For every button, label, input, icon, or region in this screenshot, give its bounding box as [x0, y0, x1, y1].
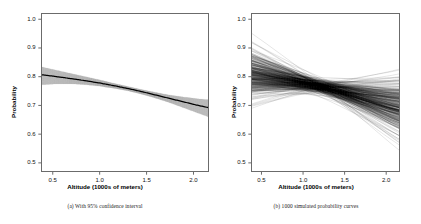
panel-b-y-tick-label: 0.9: [224, 44, 246, 50]
panel-a-plot: [0, 0, 210, 200]
panel-a-x-tick-label: 1.0: [89, 177, 111, 183]
panel-a-x-tick-label: 2.0: [182, 177, 204, 183]
panel-b-y-tick-label: 0.6: [224, 131, 246, 137]
panel-a-band-striation: [42, 68, 209, 101]
panel-b-y-tick-label: 0.5: [224, 159, 246, 165]
panel-a-y-tick-label: 0.8: [14, 73, 36, 79]
panel-b-x-tick-label: 1.0: [292, 177, 314, 183]
panel-a-band-striation: [42, 81, 209, 113]
panel-a-band-and-line: [42, 67, 209, 117]
panel-a-x-axis-title: Altitude (1000s of meters): [0, 183, 210, 190]
panel-b-x-tick-label: 2.0: [375, 177, 397, 183]
panel-a-y-tick-label: 0.9: [14, 44, 36, 50]
panel-a-x-tick-label: 1.5: [136, 177, 158, 183]
panel-b-caption: (b) 1000 simulated probability curves: [211, 203, 421, 209]
panel-b-plot: [211, 0, 421, 200]
panel-a-x-tick-label: 0.5: [42, 177, 64, 183]
panel-a-plot-border: [42, 14, 209, 172]
panel-b-y-tick-label: 0.8: [224, 73, 246, 79]
panel-b-simulation-lines: [252, 33, 400, 150]
panel-a-y-tick-label: 0.5: [14, 159, 36, 165]
panel-b-x-axis-title: Altitude (1000s of meters): [211, 183, 421, 190]
panel-b-simulated-curves: Probability Altitude (1000s of meters) (…: [211, 0, 421, 224]
panel-b-x-tick-label: 1.5: [334, 177, 356, 183]
panel-b-y-tick-label: 0.7: [224, 102, 246, 108]
panel-a-y-tick-label: 1.0: [14, 16, 36, 22]
figure-two-panel-probability-plots: Probability Altitude (1000s of meters) (…: [0, 0, 421, 224]
panel-a-confidence-interval: Probability Altitude (1000s of meters) (…: [0, 0, 210, 224]
panel-a-caption: (a) With 95% confidence interval: [0, 203, 210, 209]
panel-b-y-tick-label: 1.0: [224, 16, 246, 22]
panel-b-x-tick-label: 0.5: [250, 177, 272, 183]
panel-a-y-tick-label: 0.7: [14, 102, 36, 108]
panel-a-y-tick-label: 0.6: [14, 131, 36, 137]
